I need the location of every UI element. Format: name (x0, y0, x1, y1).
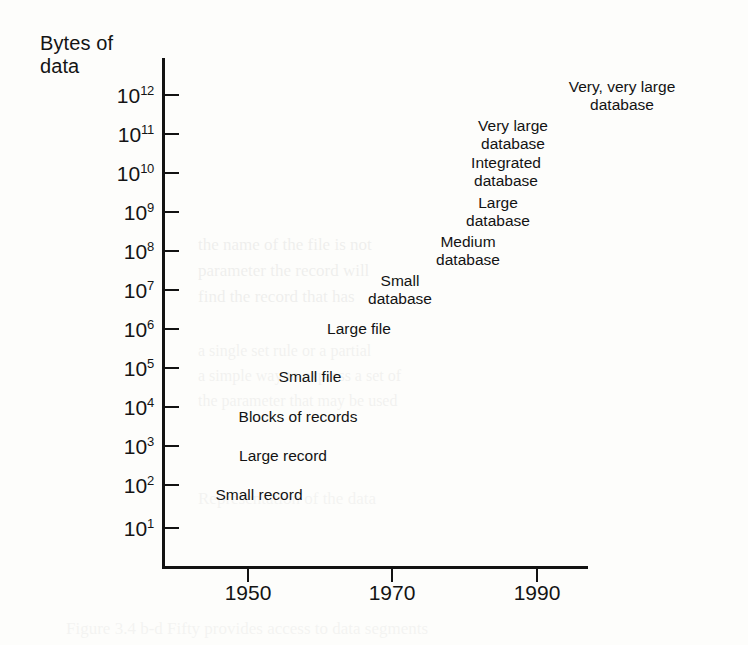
y-tick-label: 103 (88, 435, 154, 458)
y-tick-label: 1011 (88, 123, 154, 146)
y-tick-exponent: 1 (147, 516, 154, 531)
data-label-blocks-of-records: Blocks of records (239, 408, 358, 426)
y-tick-mark (165, 527, 179, 529)
data-label-large-record: Large record (239, 447, 327, 465)
bleed-through-text-8: Figure 3.4 b-d Fifty provides access to … (66, 616, 706, 641)
data-label-large-database: Large database (466, 194, 530, 229)
y-tick-base: 10 (124, 435, 147, 458)
data-label-integrated-database: Integrated database (471, 154, 541, 189)
y-tick-base: 10 (124, 318, 147, 341)
y-tick-label: 102 (88, 474, 154, 497)
y-tick-mark (165, 94, 179, 96)
y-axis-title: Bytes of data (40, 32, 113, 78)
y-tick-label: 108 (88, 240, 154, 263)
x-tick-label: 1950 (200, 582, 296, 603)
y-tick-label: 107 (88, 279, 154, 302)
y-tick-mark (165, 289, 179, 291)
x-axis-line (162, 566, 588, 569)
y-tick-exponent: 2 (147, 473, 154, 488)
y-tick-label: 101 (88, 517, 154, 540)
y-tick-label: 1010 (88, 162, 154, 185)
y-tick-exponent: 6 (147, 317, 154, 332)
figure-data-volume-chart: the name of the file is not parameter th… (0, 0, 748, 645)
y-tick-label: 1012 (88, 84, 154, 107)
y-tick-exponent: 10 (140, 161, 154, 176)
y-tick-base: 10 (124, 240, 147, 263)
data-label-small-file: Small file (279, 368, 342, 386)
y-tick-label: 105 (88, 357, 154, 380)
y-tick-base: 10 (124, 279, 147, 302)
y-tick-mark (165, 172, 179, 174)
data-label-small-database: Small database (368, 272, 432, 307)
x-tick-label: 1970 (344, 582, 440, 603)
y-tick-mark (165, 367, 179, 369)
y-tick-exponent: 9 (147, 200, 154, 215)
y-tick-mark (165, 328, 179, 330)
y-tick-exponent: 4 (147, 395, 154, 410)
y-tick-label: 106 (88, 318, 154, 341)
y-tick-base: 10 (124, 357, 147, 380)
bleed-through-text-1: the name of the file is not (198, 232, 618, 257)
y-tick-mark (165, 211, 179, 213)
y-tick-mark (165, 406, 179, 408)
y-tick-exponent: 5 (147, 356, 154, 371)
y-tick-base: 10 (117, 84, 140, 107)
y-tick-exponent: 12 (140, 83, 154, 98)
y-tick-base: 10 (124, 396, 147, 419)
data-label-very-very-large-database: Very, very large database (559, 78, 685, 113)
y-tick-base: 10 (117, 162, 140, 185)
y-tick-exponent: 7 (147, 278, 154, 293)
y-tick-mark (165, 133, 179, 135)
y-tick-exponent: 11 (141, 122, 154, 137)
y-tick-base: 10 (124, 474, 147, 497)
x-tick-label: 1990 (489, 582, 585, 603)
y-tick-mark (165, 445, 179, 447)
y-tick-base: 10 (124, 517, 147, 540)
y-tick-base: 10 (124, 201, 147, 224)
y-tick-base: 10 (118, 123, 141, 146)
data-label-very-large-database: Very large database (478, 117, 548, 152)
data-label-medium-database: Medium database (436, 233, 500, 268)
data-label-small-record: Small record (216, 486, 303, 504)
bleed-through-text-4: a single set rule or a partial (198, 338, 628, 363)
y-tick-label: 104 (88, 396, 154, 419)
y-tick-label: 109 (88, 201, 154, 224)
y-tick-exponent: 8 (147, 239, 154, 254)
y-tick-exponent: 3 (147, 434, 154, 449)
y-tick-mark (165, 250, 179, 252)
bleed-through-text-5: a simple way to express a set of (198, 363, 638, 388)
data-label-large-file: Large file (327, 320, 391, 338)
y-tick-mark (165, 484, 179, 486)
